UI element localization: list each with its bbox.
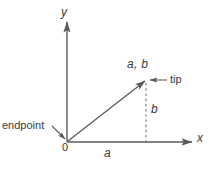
components-label: a, b [127, 58, 148, 70]
y-axis-label: y [61, 6, 67, 18]
vector-diagram: y x a, b tip b a 0 endpoint [0, 0, 220, 169]
diagram-canvas [0, 0, 220, 169]
endpoint-label: endpoint [2, 120, 44, 131]
origin-label: 0 [62, 142, 68, 153]
vector-arrow [68, 81, 145, 141]
endpoint-leader-line [52, 126, 65, 139]
x-axis-label: x [197, 132, 203, 144]
tip-label: tip [170, 74, 182, 85]
horizontal-component-label: a [104, 147, 111, 159]
vertical-component-label: b [151, 103, 158, 115]
